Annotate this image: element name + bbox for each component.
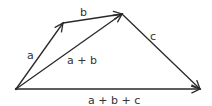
arrowhead-icon [113,14,122,22]
origin-point [15,88,17,90]
vector-a [16,23,63,89]
label-a-plus-b-plus-c: a + b + c [88,94,140,106]
label-a-plus-b: a + b [67,54,97,67]
vector-addition-diagram: a b c a + b a + b + c [0,0,212,106]
label-c: c [150,30,156,43]
vector-c [122,14,200,89]
label-b: b [80,6,87,19]
label-a: a [27,49,34,62]
diagram-canvas: a b c a + b a + b + c [0,0,212,106]
